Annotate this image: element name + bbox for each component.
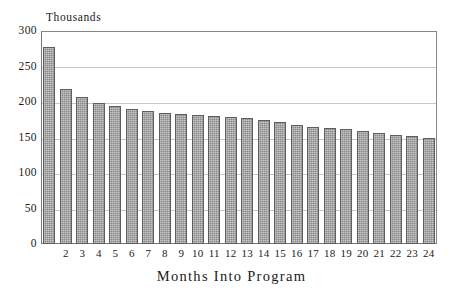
x-tick-label: 9 xyxy=(173,247,190,259)
x-tick-label: 23 xyxy=(404,247,421,259)
x-tick-label: 24 xyxy=(421,247,438,259)
x-tick-label: 15 xyxy=(272,247,289,259)
x-tick-label: 10 xyxy=(190,247,207,259)
y-axis-tick-labels: 050100150200250300 xyxy=(0,0,37,296)
bar xyxy=(340,129,352,244)
x-axis-tick-labels: 23456789101112131415161718192021222324 xyxy=(41,247,437,263)
x-tick-label: 14 xyxy=(256,247,273,259)
bar xyxy=(274,122,286,244)
x-tick-label: 7 xyxy=(140,247,157,259)
bar-series xyxy=(41,31,437,244)
bar xyxy=(76,97,88,244)
bar xyxy=(258,120,270,244)
x-tick-label: 13 xyxy=(239,247,256,259)
bar xyxy=(291,125,303,244)
x-tick-label: 8 xyxy=(157,247,174,259)
bar xyxy=(175,114,187,244)
bar xyxy=(241,118,253,244)
y-axis-unit-caption: Thousands xyxy=(46,11,101,23)
y-tick-label: 150 xyxy=(0,131,37,143)
bar xyxy=(43,47,55,244)
bar xyxy=(109,106,121,244)
x-tick-label: 21 xyxy=(371,247,388,259)
bar xyxy=(390,135,402,244)
x-tick-label: 11 xyxy=(206,247,223,259)
bar xyxy=(142,111,154,244)
y-tick-label: 200 xyxy=(0,95,37,107)
bar xyxy=(225,117,237,244)
bar xyxy=(159,113,171,244)
bar xyxy=(192,115,204,244)
y-tick-label: 250 xyxy=(0,60,37,72)
bar xyxy=(60,89,72,244)
x-tick-label: 16 xyxy=(289,247,306,259)
bar xyxy=(373,133,385,244)
x-tick-label: 20 xyxy=(355,247,372,259)
x-tick-label: 2 xyxy=(58,247,75,259)
bar xyxy=(423,138,435,244)
bar xyxy=(357,131,369,244)
x-tick-label: 18 xyxy=(322,247,339,259)
x-tick-label: 22 xyxy=(388,247,405,259)
y-tick-label: 0 xyxy=(0,237,37,249)
x-tick-label: 4 xyxy=(91,247,108,259)
bar-chart: Thousands 050100150200250300 23456789101… xyxy=(0,0,463,296)
x-tick-label: 6 xyxy=(124,247,141,259)
y-tick-label: 300 xyxy=(0,24,37,36)
x-tick-label: 12 xyxy=(223,247,240,259)
bar xyxy=(126,109,138,244)
bar xyxy=(324,128,336,244)
bar xyxy=(307,127,319,244)
x-axis-title: Months Into Program xyxy=(0,268,463,285)
y-tick-label: 50 xyxy=(0,202,37,214)
x-tick-label: 17 xyxy=(305,247,322,259)
bar xyxy=(93,103,105,244)
y-tick-label: 100 xyxy=(0,166,37,178)
x-tick-label: 3 xyxy=(74,247,91,259)
bar xyxy=(208,116,220,245)
x-tick-label: 5 xyxy=(107,247,124,259)
bar xyxy=(406,136,418,244)
x-tick-label: 19 xyxy=(338,247,355,259)
